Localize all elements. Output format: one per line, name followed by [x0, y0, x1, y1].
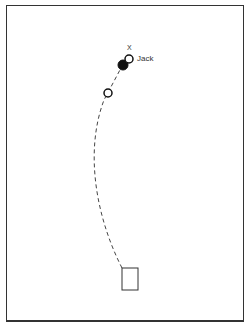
target-marker-label: X [127, 44, 132, 51]
jack-icon [125, 55, 133, 63]
jack-label: Jack [137, 54, 153, 63]
diagram-canvas [0, 0, 251, 329]
bowl-open-icon [104, 89, 112, 97]
mat-icon [122, 268, 138, 290]
trajectory-path [94, 68, 122, 268]
